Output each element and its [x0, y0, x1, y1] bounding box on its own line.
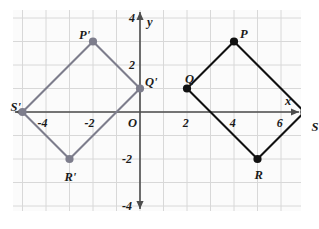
vertex-label-P: P: [240, 28, 248, 41]
origin-label: O: [128, 117, 137, 130]
diagram-canvas: PQRSP'Q'R'S'-4-224642-2-4Oxy: [0, 0, 319, 229]
vertex-label-S-prime: S': [11, 101, 21, 114]
x-tick-label: -4: [38, 117, 48, 129]
vertex-label-Q-prime: Q': [145, 76, 158, 89]
x-axis-label: x: [285, 95, 291, 108]
y-tick-label: 4: [129, 12, 135, 24]
y-tick-label: -4: [122, 200, 132, 212]
vertex-label-Q: Q: [185, 73, 194, 86]
vertex-point: [65, 155, 73, 163]
vertex-label-S: S: [312, 121, 319, 134]
y-tick-label: 2: [129, 59, 135, 71]
vertex-point: [136, 84, 144, 92]
polygon-preimage: [183, 37, 301, 163]
vertex-label-R-prime: R': [65, 171, 77, 184]
vertex-point: [183, 84, 191, 92]
vertex-label-P-prime: P': [79, 29, 90, 42]
vertex-point: [253, 155, 261, 163]
x-tick-label: 4: [230, 117, 236, 129]
polygon-image: [18, 37, 144, 163]
y-tick-label: -2: [122, 153, 132, 165]
vertex-point: [230, 37, 238, 45]
y-axis-label: y: [147, 16, 153, 29]
x-tick-label: 2: [183, 117, 189, 129]
x-tick-label: -2: [85, 117, 95, 129]
vertex-point: [89, 37, 97, 45]
x-tick-label: 6: [277, 117, 283, 129]
vertex-label-R: R: [255, 169, 263, 182]
